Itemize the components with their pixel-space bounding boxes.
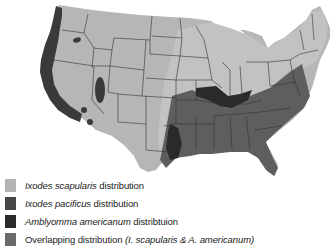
pacificus-patch-utah xyxy=(95,77,105,103)
legend-swatch-overlapping xyxy=(5,233,16,246)
legend-item-scapularis: Ixodes scapularis distribution xyxy=(5,176,335,194)
legend-label-amblyomma: Amblyomma americanum distribtuion xyxy=(25,216,178,227)
us-distribution-map xyxy=(0,0,335,180)
legend-label-scapularis: Ixodes scapularis distribution xyxy=(25,180,144,191)
legend-swatch-pacificus xyxy=(5,197,16,210)
pacificus-patch-arizona xyxy=(87,119,93,125)
legend: Ixodes scapularis distribution Ixodes pa… xyxy=(5,176,335,248)
pacificus-patch-nevada xyxy=(81,107,87,113)
legend-label-overlapping: Overlapping distribution (I. scapularis … xyxy=(25,234,254,245)
legend-item-pacificus: Ixodes pacificus distribution xyxy=(5,194,335,212)
legend-swatch-amblyomma xyxy=(5,215,16,228)
legend-label-pacificus: Ixodes pacificus distribution xyxy=(25,198,138,209)
legend-item-amblyomma: Amblyomma americanum distribtuion xyxy=(5,212,335,230)
legend-item-overlapping: Overlapping distribution (I. scapularis … xyxy=(5,230,335,248)
legend-swatch-scapularis xyxy=(5,179,16,192)
